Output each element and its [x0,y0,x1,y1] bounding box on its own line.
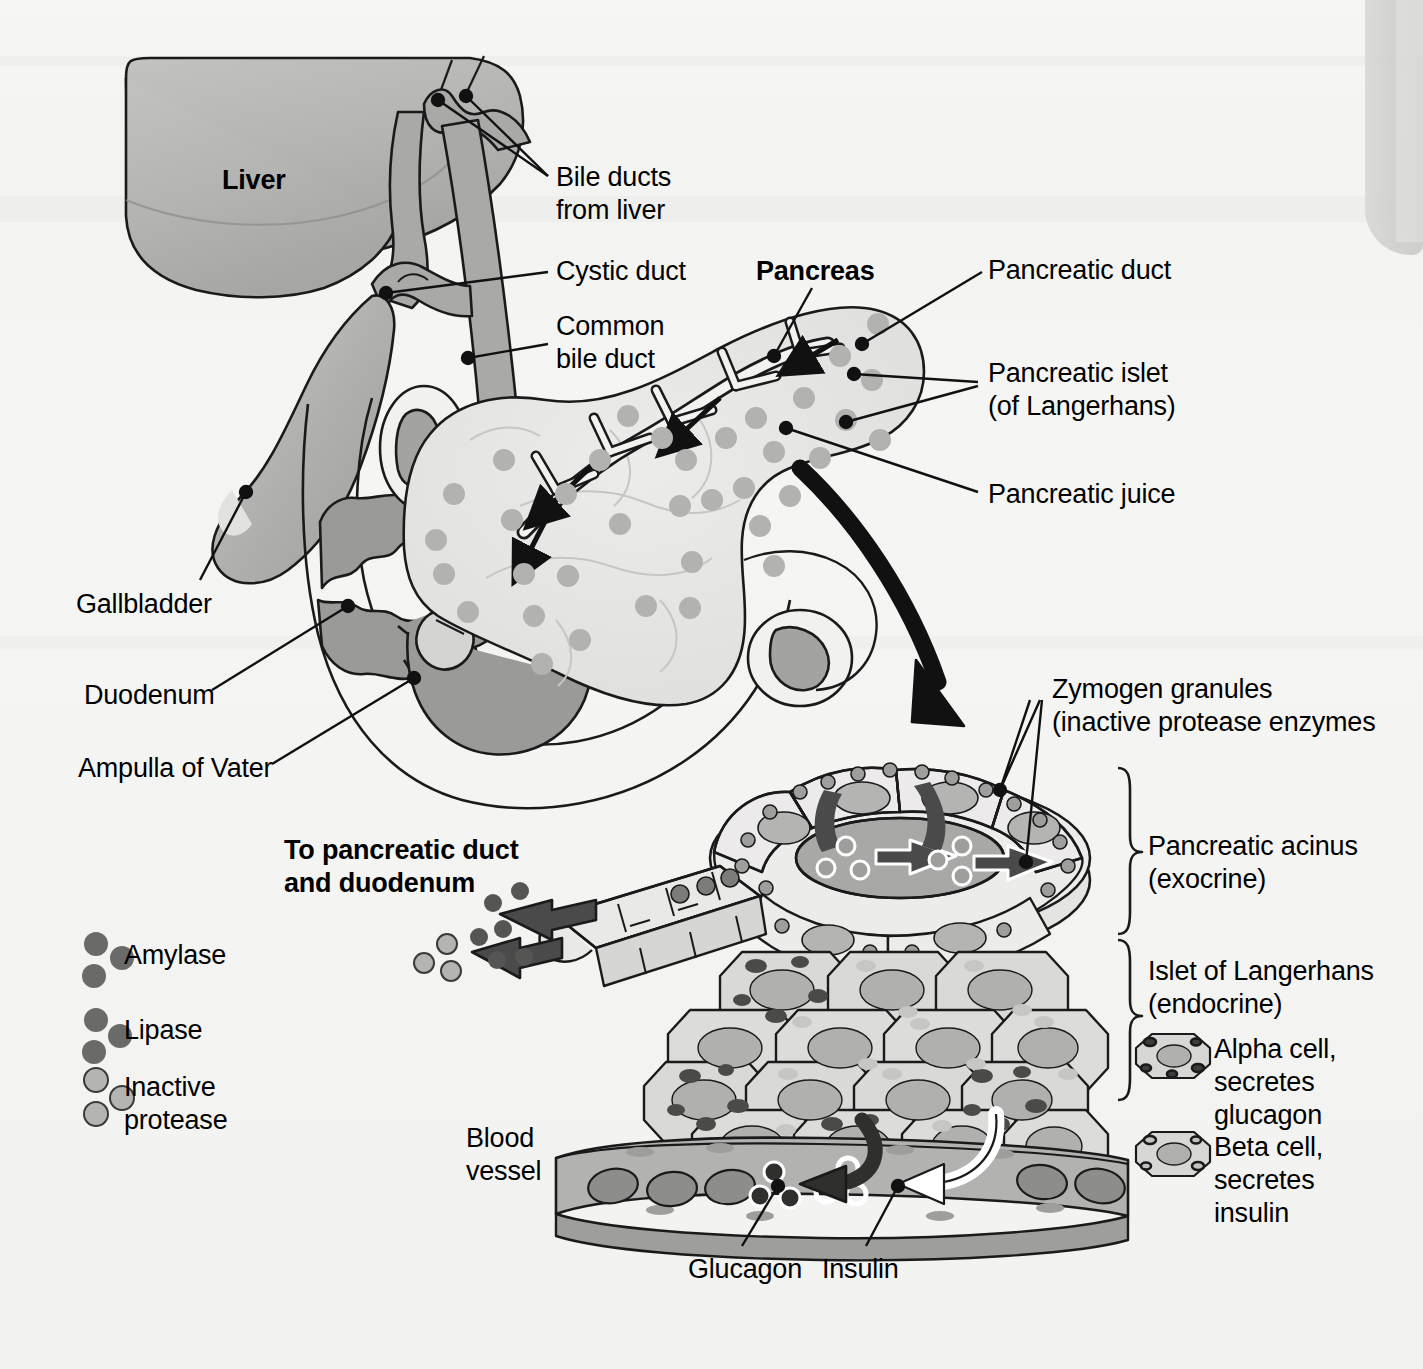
label-pancreatic-duct: Pancreatic duct [988,254,1171,287]
legend-beta-cell-swatch [1136,1132,1210,1176]
label-bile-ducts-from-liver: Bile ducts from liver [556,161,671,227]
legend-label-amylase: Amylase [124,939,226,972]
label-beta-cell: Beta cell, secretes insulin [1214,1131,1323,1230]
label-cystic-duct: Cystic duct [556,255,686,288]
label-liver: Liver [222,164,286,197]
label-blood-vessel: Blood vessel [466,1122,541,1188]
legend-label-lipase: Lipase [124,1014,202,1047]
label-pancreas: Pancreas [756,255,875,288]
label-insulin: Insulin [822,1253,899,1286]
label-to-pancreatic-duct: To pancreatic duct and duodenum [284,834,518,900]
label-pancreatic-acinus: Pancreatic acinus (exocrine) [1148,830,1358,896]
label-islet-of-langerhans: Islet of Langerhans (endocrine) [1148,955,1374,1021]
legend-label-inactive-protease: Inactive protease [124,1071,227,1137]
label-gallbladder: Gallbladder [76,588,212,621]
label-zymogen-granules: Zymogen granules (inactive protease enzy… [1052,673,1375,739]
label-glucagon: Glucagon [688,1253,802,1286]
label-alpha-cell: Alpha cell, secretes glucagon [1214,1033,1336,1132]
label-duodenum: Duodenum [84,679,215,712]
label-pancreatic-juice: Pancreatic juice [988,478,1175,511]
label-pancreatic-islet: Pancreatic islet (of Langerhans) [988,357,1176,423]
label-common-bile-duct: Common bile duct [556,310,664,376]
figure-canvas: Liver Bile ducts from liver Cystic duct … [0,0,1423,1369]
legend-alpha-cell-swatch [1136,1034,1210,1078]
label-ampulla-of-vater: Ampulla of Vater [78,752,272,785]
